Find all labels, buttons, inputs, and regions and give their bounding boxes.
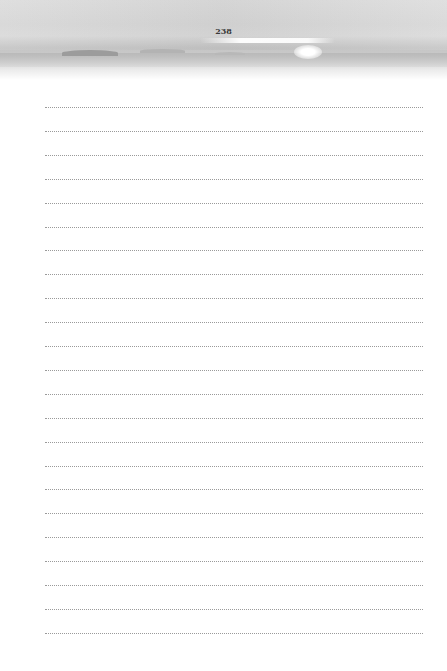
writing-line: [45, 394, 423, 395]
island: [215, 52, 245, 55]
writing-line: [45, 633, 423, 634]
island: [62, 50, 118, 56]
writing-line: [45, 585, 423, 586]
writing-line: [45, 227, 423, 228]
island: [140, 49, 185, 53]
writing-line: [45, 107, 423, 108]
page-number: 238: [0, 26, 447, 36]
writing-line: [45, 179, 423, 180]
writing-line: [45, 537, 423, 538]
header-seascape-image: [0, 0, 447, 80]
writing-line: [45, 489, 423, 490]
writing-line: [45, 561, 423, 562]
sun-glow-icon: [294, 45, 322, 59]
writing-line: [45, 442, 423, 443]
writing-line: [45, 250, 423, 251]
writing-line: [45, 513, 423, 514]
writing-line: [45, 203, 423, 204]
light-streak: [200, 38, 335, 43]
writing-line: [45, 274, 423, 275]
writing-line: [45, 298, 423, 299]
writing-line: [45, 155, 423, 156]
writing-line: [45, 418, 423, 419]
writing-line: [45, 131, 423, 132]
writing-line: [45, 466, 423, 467]
writing-line: [45, 609, 423, 610]
writing-line: [45, 346, 423, 347]
writing-line: [45, 370, 423, 371]
writing-line: [45, 322, 423, 323]
